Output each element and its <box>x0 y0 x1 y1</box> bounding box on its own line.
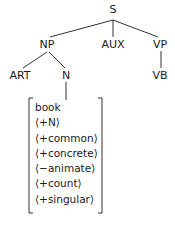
feature-animate: ⟨−animate⟩ <box>35 161 98 176</box>
edge-np-n <box>49 52 65 68</box>
node-art: ART <box>8 70 31 82</box>
lexeme: book <box>35 100 98 115</box>
feature-count: ⟨+count⟩ <box>35 176 98 191</box>
right-bracket <box>98 98 102 213</box>
feature-concrete: ⟨+concrete⟩ <box>35 146 98 161</box>
node-s: S <box>109 4 118 16</box>
node-aux: AUX <box>100 39 125 51</box>
node-vp: VP <box>152 39 168 51</box>
feature-singular: ⟨+singular⟩ <box>35 192 98 207</box>
node-np: NP <box>39 39 56 51</box>
node-n: N <box>61 70 71 82</box>
edge-s-np <box>50 20 113 37</box>
feature-common: ⟨+common⟩ <box>35 131 98 146</box>
feature-matrix: book ⟨+N⟩ ⟨+common⟩ ⟨+concrete⟩ ⟨−animat… <box>35 100 98 207</box>
left-bracket <box>29 98 33 213</box>
node-vb: VB <box>151 70 168 82</box>
feature-n: ⟨+N⟩ <box>35 115 98 130</box>
edge-s-vp <box>113 20 158 37</box>
edge-np-art <box>23 52 47 68</box>
